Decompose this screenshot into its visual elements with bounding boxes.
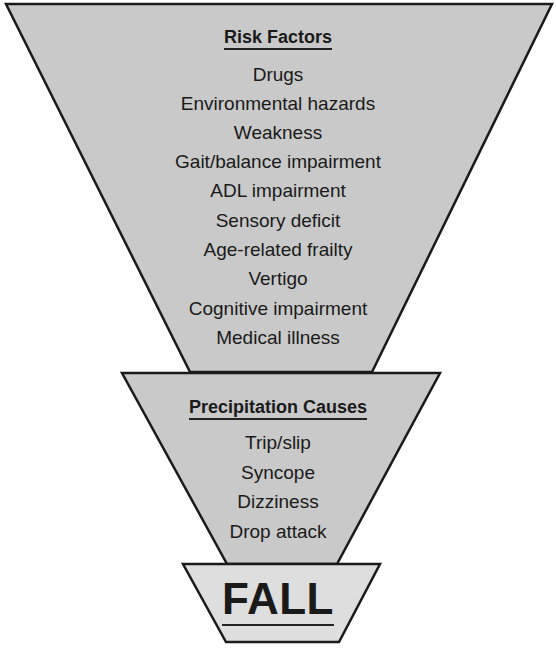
risk-factor-item: Weakness xyxy=(0,123,556,142)
precipitation-causes-heading: Precipitation Causes xyxy=(0,398,556,420)
risk-factor-item: Gait/balance impairment xyxy=(0,152,556,171)
fall-outcome-label: FALL xyxy=(0,577,556,626)
risk-factor-item: Environmental hazards xyxy=(0,94,556,113)
risk-factors-heading: Risk Factors xyxy=(0,28,556,50)
risk-factor-item: Age-related frailty xyxy=(0,240,556,259)
risk-factor-item: Vertigo xyxy=(0,269,556,288)
precipitation-cause-item: Syncope xyxy=(0,463,556,482)
risk-factors-heading-text: Risk Factors xyxy=(224,28,332,50)
risk-factor-item: Drugs xyxy=(0,65,556,84)
fall-outcome-text: FALL xyxy=(222,577,334,626)
precipitation-cause-item: Dizziness xyxy=(0,492,556,511)
precipitation-cause-item: Trip/slip xyxy=(0,433,556,452)
risk-factor-item: Sensory deficit xyxy=(0,211,556,230)
risk-factor-item: Medical illness xyxy=(0,328,556,347)
precipitation-cause-item: Drop attack xyxy=(0,522,556,541)
risk-factor-item: Cognitive impairment xyxy=(0,299,556,318)
risk-factor-item: ADL impairment xyxy=(0,181,556,200)
precipitation-causes-heading-text: Precipitation Causes xyxy=(189,398,367,420)
